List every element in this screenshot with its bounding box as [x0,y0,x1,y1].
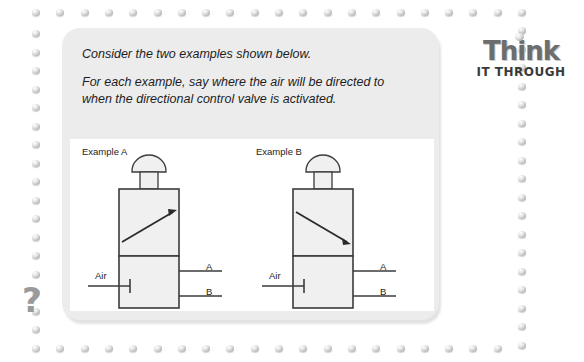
border-bead-dot-icon [56,345,64,352]
border-bead-dot-icon [105,345,113,352]
border-bead-dot-icon [56,9,64,16]
border-bead-dot-icon [518,120,526,127]
border-bead-dot-icon [494,345,502,352]
border-bead-dot-icon [299,9,307,16]
border-bead-dot-icon [518,286,526,293]
border-bead-dot-icon [518,83,526,90]
border-bead-dot-icon [348,9,356,16]
border-bead-dot-icon [518,323,526,330]
border-bead-dot-icon [81,9,89,16]
prompt-line-1: Consider the two examples shown below. [82,46,412,63]
border-bead-dot-icon [518,9,526,16]
border-bead-dot-icon [178,345,186,352]
think-it-through-logo: Think IT THROUGH [465,38,577,79]
logo-title: Think [465,38,577,64]
border-bead-dot-icon [494,9,502,16]
border-bead-dot-icon [226,9,234,16]
screenshot-stage: Consider the two examples shown below. F… [0,0,584,362]
example-a-diagram: Example A A [70,139,240,311]
border-bead-dot-icon [518,138,526,145]
border-bead-dot-icon [518,305,526,312]
border-bead-dot-icon [32,160,40,167]
border-bead-dot-icon [32,178,40,185]
valve-lower-box [293,256,353,308]
border-bead-dot-icon [251,345,259,352]
border-bead-dot-icon [518,101,526,108]
valve-upper-box [119,189,179,256]
example-b-diagram: Example B A B Air [244,139,414,311]
border-bead-dot-icon [518,231,526,238]
example-b-port-a-label: A [380,261,386,272]
actuator-stem [140,172,158,189]
border-bead-dot-icon [397,9,405,16]
border-bead-dot-icon [518,212,526,219]
border-bead-dot-icon [32,345,40,352]
diagram-panel: Example A A [70,139,434,311]
border-bead-dot-icon [445,9,453,16]
border-bead-dot-icon [518,268,526,275]
border-bead-dot-icon [154,345,162,352]
border-bead-dot-icon [324,345,332,352]
example-a-air-label: Air [95,270,107,281]
question-mark-icon: ? [22,283,42,317]
example-a-port-b-label: B [206,286,212,297]
border-bead-dot-icon [469,9,477,16]
example-a-port-a-label: A [206,261,212,272]
border-bead-dot-icon [397,345,405,352]
border-bead-dot-icon [32,67,40,74]
border-bead-dot-icon [226,345,234,352]
border-bead-dot-icon [81,345,89,352]
border-bead-dot-icon [32,141,40,148]
border-bead-dot-icon [251,9,259,16]
example-b-air-label: Air [269,270,281,281]
logo-subtitle: IT THROUGH [465,65,577,79]
border-bead-dot-icon [129,9,137,16]
actuator-dome-icon [306,155,340,172]
border-bead-dot-icon [518,249,526,256]
border-bead-dot-icon [32,234,40,241]
border-bead-dot-icon [372,9,380,16]
border-bead-dot-icon [32,104,40,111]
actuator-dome-icon [132,155,166,172]
border-bead-dot-icon [518,175,526,182]
border-bead-dot-icon [154,9,162,16]
actuator-stem [314,172,332,189]
example-b-label: Example B [256,146,302,157]
example-a-label: Example A [82,146,127,157]
border-bead-dot-icon [518,194,526,201]
border-bead-dot-icon [469,345,477,352]
border-bead-dot-icon [518,157,526,164]
border-bead-dot-icon [372,345,380,352]
border-bead-dot-icon [445,345,453,352]
border-bead-dot-icon [32,30,40,37]
border-bead-dot-icon [32,49,40,56]
border-bead-dot-icon [518,342,526,349]
border-bead-dot-icon [421,9,429,16]
example-a-valve-svg [70,139,240,311]
valve-upper-box [293,189,353,256]
border-bead-dot-icon [178,9,186,16]
border-bead-dot-icon [324,9,332,16]
border-bead-dot-icon [32,197,40,204]
prompt-line-2: For each example, say where the air will… [82,74,412,108]
valve-lower-box [119,256,179,308]
border-bead-dot-icon [275,9,283,16]
border-bead-dot-icon [32,271,40,278]
border-bead-dot-icon [32,9,40,16]
example-b-valve-svg [244,139,414,311]
border-bead-dot-icon [105,9,113,16]
logo-bead-dot-icon [515,33,524,41]
border-bead-dot-icon [129,345,137,352]
border-bead-dot-icon [32,215,40,222]
border-bead-dot-icon [32,326,40,333]
border-bead-dot-icon [299,345,307,352]
border-bead-dot-icon [348,345,356,352]
prompt-text: Consider the two examples shown below. F… [82,46,412,108]
border-bead-dot-icon [202,9,210,16]
border-bead-dot-icon [32,86,40,93]
border-bead-dot-icon [202,345,210,352]
border-bead-dot-icon [275,345,283,352]
border-bead-dot-icon [32,123,40,130]
example-b-port-b-label: B [380,286,386,297]
border-bead-dot-icon [32,252,40,259]
